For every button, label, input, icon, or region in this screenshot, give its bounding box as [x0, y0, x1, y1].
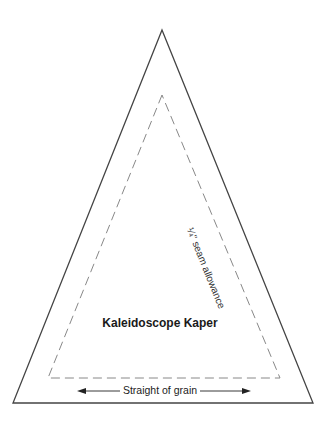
template-canvas: Kaleidoscope Kaper ¼" seam allowance Str… — [0, 0, 320, 421]
grain-label-wrap: Straight of grain — [0, 384, 320, 396]
template-title: Kaleidoscope Kaper — [0, 316, 320, 330]
grain-label: Straight of grain — [120, 384, 200, 396]
template-shape — [0, 0, 320, 421]
outer-triangle — [13, 30, 313, 403]
